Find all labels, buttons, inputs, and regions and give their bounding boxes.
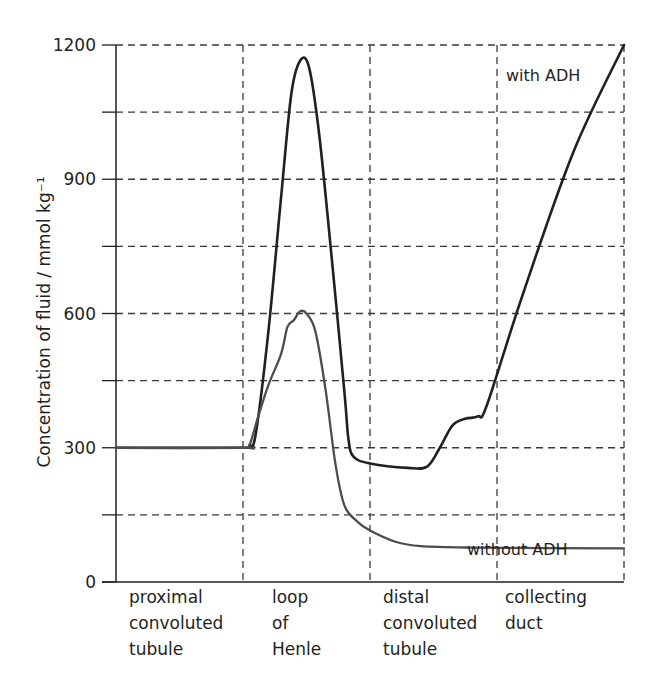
- series-label-without-adh: without ADH: [467, 540, 568, 559]
- series-label-with-adh: with ADH: [506, 66, 580, 85]
- region-label-distal-convoluted-tubule: distal convoluted tubule: [383, 584, 477, 662]
- grid-lines: [116, 45, 624, 582]
- y-axis-title: Concentration of fluid / mmol kg⁻¹: [34, 176, 54, 467]
- y-tick-label: 900: [64, 169, 96, 189]
- y-tick-label: 300: [64, 438, 96, 458]
- y-tick-label: 1200: [53, 35, 96, 55]
- y-tick-label: 600: [64, 304, 96, 324]
- region-label-collecting-duct: collecting duct: [505, 584, 587, 636]
- region-label-proximal-convoluted-tubule: proximal convoluted tubule: [129, 584, 223, 662]
- y-tick-label: 0: [85, 572, 96, 592]
- y-axis-ticks: 03006009001200: [53, 35, 116, 592]
- region-label-loop-of-henle: loop of Henle: [272, 584, 321, 662]
